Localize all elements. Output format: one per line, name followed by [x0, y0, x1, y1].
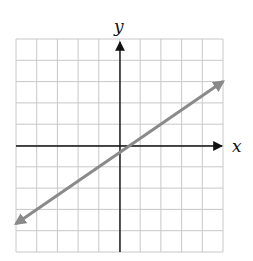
x-axis-label: x: [232, 136, 242, 156]
coordinate-plane: x y: [0, 0, 253, 261]
y-axis-label: y: [113, 16, 124, 36]
